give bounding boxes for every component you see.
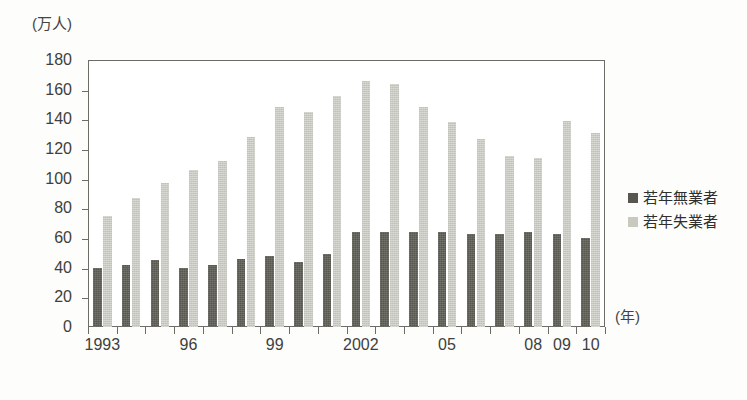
legend-item-2[interactable]: 若年失業者 (628, 214, 743, 229)
x-axis-tick (289, 327, 290, 334)
bar-1994-series2 (132, 198, 141, 327)
y-axis-tick-label: 160 (0, 81, 82, 99)
x-axis-tick (232, 327, 233, 334)
bar-2002-series1 (352, 232, 361, 327)
bar-2009-series2 (563, 121, 572, 327)
legend-swatch-icon (628, 217, 638, 227)
y-axis-tick-label: 60 (0, 229, 82, 247)
bar-2004-series1 (409, 232, 418, 327)
x-axis-tick (490, 327, 491, 334)
bar-1993-series1 (93, 268, 102, 327)
bar-chart-figure: (万人) 020406080100120140160180 1993969920… (0, 0, 747, 400)
x-axis-tick (605, 327, 606, 334)
y-axis-tick-label: 20 (0, 288, 82, 306)
bar-1996-series1 (179, 268, 188, 327)
bar-1998-series1 (237, 259, 246, 327)
bar-2006-series1 (467, 234, 476, 327)
x-axis-tick (548, 327, 549, 334)
bar-1998-series2 (247, 137, 256, 327)
y-axis-tick-label: 100 (0, 170, 82, 188)
legend-label: 若年無業者 (643, 190, 718, 205)
x-axis-tick (461, 327, 462, 334)
legend-label: 若年失業者 (643, 214, 718, 229)
x-axis-tick (375, 327, 376, 334)
x-axis-tick-labels: 19939699200205080910 (88, 336, 605, 366)
x-axis-tick (318, 327, 319, 334)
x-axis-tick-label: 99 (266, 336, 284, 354)
y-axis-tick-label: 140 (0, 110, 82, 128)
bar-2009-series1 (553, 234, 562, 327)
bar-2006-series2 (477, 139, 486, 327)
x-axis-tick-label: 2002 (343, 336, 379, 354)
x-axis-tick (88, 327, 89, 334)
x-axis-tick (145, 327, 146, 334)
bar-2004-series2 (419, 107, 428, 327)
x-axis-tick (433, 327, 434, 334)
bar-2008-series2 (534, 158, 543, 327)
x-axis-unit-label: (年) (615, 305, 640, 326)
x-axis-tick-label: 1993 (85, 336, 121, 354)
x-axis-tick (174, 327, 175, 334)
bar-2005-series2 (448, 122, 457, 327)
x-axis-ticks (88, 327, 605, 335)
bar-2003-series2 (390, 84, 399, 327)
x-axis-tick-label: 05 (438, 336, 456, 354)
y-axis-unit-label: (万人) (32, 12, 72, 33)
bar-1996-series2 (189, 170, 198, 327)
bar-2010-series1 (581, 238, 590, 327)
x-axis-tick-label: 09 (553, 336, 571, 354)
chart-legend: 若年無業者若年失業者 (628, 190, 743, 238)
legend-swatch-icon (628, 193, 638, 203)
bar-1997-series2 (218, 161, 227, 327)
y-axis-tick-label: 180 (0, 51, 82, 69)
x-axis-tick (203, 327, 204, 334)
y-axis-tick-label: 0 (0, 318, 82, 336)
bar-2002-series2 (362, 81, 371, 327)
x-axis-tick (576, 327, 577, 334)
bar-2007-series2 (505, 156, 514, 327)
bar-series-group (88, 60, 605, 327)
x-axis-tick (347, 327, 348, 334)
bar-1995-series2 (161, 183, 170, 327)
legend-item-1[interactable]: 若年無業者 (628, 190, 743, 205)
y-axis-tick-label: 80 (0, 199, 82, 217)
bar-2005-series1 (438, 232, 447, 327)
x-axis-tick-label: 96 (180, 336, 198, 354)
y-axis-tick-label: 120 (0, 140, 82, 158)
bar-2007-series1 (495, 234, 504, 327)
y-axis-tick-label: 40 (0, 259, 82, 277)
bar-1995-series1 (151, 260, 160, 327)
x-axis-tick-label: 10 (582, 336, 600, 354)
bar-2000-series2 (304, 112, 313, 327)
x-axis-tick (519, 327, 520, 334)
bar-2000-series1 (294, 262, 303, 327)
bar-2010-series2 (591, 133, 600, 327)
bar-1994-series1 (122, 265, 131, 327)
x-axis-tick (260, 327, 261, 334)
bar-2001-series1 (323, 254, 332, 327)
bar-2001-series2 (333, 96, 342, 327)
bar-1999-series2 (275, 107, 284, 327)
bar-1993-series2 (103, 216, 112, 327)
x-axis-tick (404, 327, 405, 334)
bar-1997-series1 (208, 265, 217, 327)
x-axis-tick (117, 327, 118, 334)
x-axis-tick-label: 08 (524, 336, 542, 354)
bar-2008-series1 (524, 232, 533, 327)
y-axis-tick-labels: 020406080100120140160180 (0, 60, 82, 327)
bar-2003-series1 (380, 232, 389, 327)
bar-1999-series1 (265, 256, 274, 327)
